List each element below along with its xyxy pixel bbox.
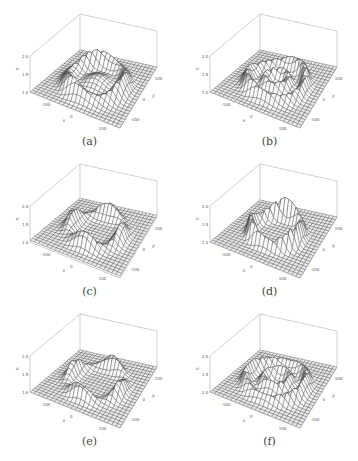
svg-text:100: 100 bbox=[155, 376, 163, 381]
svg-text:1.0: 1.0 bbox=[202, 390, 209, 395]
svg-text:u: u bbox=[196, 66, 199, 71]
panel-caption-b: (b) bbox=[180, 135, 358, 148]
svg-text:u: u bbox=[196, 216, 199, 221]
svg-text:u: u bbox=[16, 66, 19, 71]
svg-text:-100: -100 bbox=[41, 252, 51, 257]
svg-text:0: 0 bbox=[70, 114, 73, 119]
svg-text:0: 0 bbox=[323, 397, 326, 402]
svg-text:-100: -100 bbox=[221, 402, 231, 407]
svg-text:0: 0 bbox=[250, 264, 253, 269]
svg-text:1.0: 1.0 bbox=[202, 90, 209, 95]
svg-text:0: 0 bbox=[143, 247, 146, 252]
svg-text:y: y bbox=[331, 93, 335, 98]
svg-text:y: y bbox=[331, 393, 335, 398]
panel-caption-f: (f) bbox=[180, 435, 358, 448]
svg-text:2.0: 2.0 bbox=[202, 354, 209, 359]
svg-text:1.5: 1.5 bbox=[202, 222, 209, 227]
svg-text:1.5: 1.5 bbox=[202, 372, 209, 377]
svg-text:1.0: 1.0 bbox=[202, 240, 209, 245]
svg-text:0: 0 bbox=[70, 414, 73, 419]
svg-text:-100: -100 bbox=[310, 417, 320, 422]
z-axis: 1.01.52.0u bbox=[16, 354, 29, 395]
svg-text:100: 100 bbox=[335, 376, 343, 381]
surface-plot-panel-a: 1.01.52.0u-1000100x-1000100y(a) bbox=[0, 0, 179, 150]
svg-text:1.0: 1.0 bbox=[22, 390, 29, 395]
svg-text:2.0: 2.0 bbox=[22, 54, 29, 59]
svg-text:100: 100 bbox=[155, 76, 163, 81]
svg-text:x: x bbox=[242, 118, 246, 123]
surface-mesh bbox=[30, 198, 157, 276]
svg-text:-100: -100 bbox=[221, 102, 231, 107]
surface-plot-panel-c: 1.01.52.0u-1000100x-1000100y(c) bbox=[0, 150, 179, 300]
svg-text:2.0: 2.0 bbox=[202, 54, 209, 59]
surface-plot-c: 1.01.52.0u-1000100x-1000100y bbox=[0, 150, 179, 285]
surface-plot-panel-e: 1.01.52.0u-1000100x-1000100y(e) bbox=[0, 300, 179, 450]
svg-text:-100: -100 bbox=[310, 267, 320, 272]
svg-text:0: 0 bbox=[323, 97, 326, 102]
svg-text:-100: -100 bbox=[221, 252, 231, 257]
svg-text:2.0: 2.0 bbox=[22, 204, 29, 209]
panel-caption-c: (c) bbox=[0, 285, 179, 298]
svg-text:1.5: 1.5 bbox=[22, 372, 29, 377]
svg-text:100: 100 bbox=[99, 126, 107, 131]
surface-plot-panel-b: 1.01.52.0u-1000100x-1000100y(b) bbox=[180, 0, 358, 150]
svg-text:0: 0 bbox=[250, 414, 253, 419]
surface-plot-panel-d: 1.01.52.0u-1000100x-1000100y(d) bbox=[180, 150, 358, 300]
svg-text:100: 100 bbox=[335, 226, 343, 231]
svg-text:100: 100 bbox=[279, 426, 287, 431]
svg-text:100: 100 bbox=[335, 76, 343, 81]
svg-text:x: x bbox=[62, 418, 66, 423]
svg-text:-100: -100 bbox=[310, 117, 320, 122]
svg-text:1.0: 1.0 bbox=[22, 90, 29, 95]
svg-text:100: 100 bbox=[279, 276, 287, 281]
svg-text:2.0: 2.0 bbox=[22, 354, 29, 359]
svg-text:u: u bbox=[16, 366, 19, 371]
svg-text:100: 100 bbox=[99, 426, 107, 431]
svg-text:0: 0 bbox=[143, 97, 146, 102]
svg-text:0: 0 bbox=[250, 114, 253, 119]
svg-text:2.0: 2.0 bbox=[202, 204, 209, 209]
surface-plot-e: 1.01.52.0u-1000100x-1000100y bbox=[0, 300, 179, 435]
z-axis: 1.01.52.0u bbox=[16, 54, 29, 95]
svg-text:x: x bbox=[62, 118, 66, 123]
surface-plot-f: 1.01.52.0u-1000100x-1000100y bbox=[180, 300, 358, 435]
svg-text:u: u bbox=[16, 216, 19, 221]
svg-text:u: u bbox=[196, 366, 199, 371]
svg-text:-100: -100 bbox=[41, 102, 51, 107]
cut-off-caption-text bbox=[180, 452, 355, 458]
svg-text:1.5: 1.5 bbox=[22, 72, 29, 77]
svg-text:1.0: 1.0 bbox=[22, 240, 29, 245]
svg-text:-100: -100 bbox=[130, 267, 140, 272]
surface-plot-a: 1.01.52.0u-1000100x-1000100y bbox=[0, 0, 179, 135]
surface-plot-b: 1.01.52.0u-1000100x-1000100y bbox=[180, 0, 358, 135]
svg-text:1.5: 1.5 bbox=[22, 222, 29, 227]
svg-text:x: x bbox=[242, 268, 246, 273]
z-axis: 1.01.52.0u bbox=[196, 204, 209, 245]
svg-text:-100: -100 bbox=[130, 117, 140, 122]
svg-text:0: 0 bbox=[143, 397, 146, 402]
panel-caption-a: (a) bbox=[0, 135, 179, 148]
panel-caption-e: (e) bbox=[0, 435, 179, 448]
svg-text:-100: -100 bbox=[41, 402, 51, 407]
surface-plot-panel-f: 1.01.52.0u-1000100x-1000100y(f) bbox=[180, 300, 358, 450]
svg-text:0: 0 bbox=[323, 247, 326, 252]
svg-text:-100: -100 bbox=[130, 417, 140, 422]
svg-text:y: y bbox=[151, 93, 155, 98]
z-axis: 1.01.52.0u bbox=[16, 204, 29, 245]
panel-caption-d: (d) bbox=[180, 285, 358, 298]
surface-plot-d: 1.01.52.0u-1000100x-1000100y bbox=[180, 150, 358, 285]
svg-text:100: 100 bbox=[279, 126, 287, 131]
svg-text:x: x bbox=[62, 268, 66, 273]
svg-text:y: y bbox=[151, 243, 155, 248]
z-axis: 1.01.52.0u bbox=[196, 54, 209, 95]
svg-text:0: 0 bbox=[70, 264, 73, 269]
svg-text:1.5: 1.5 bbox=[202, 72, 209, 77]
svg-text:100: 100 bbox=[155, 226, 163, 231]
svg-text:100: 100 bbox=[99, 276, 107, 281]
svg-text:y: y bbox=[331, 243, 335, 248]
z-axis: 1.01.52.0u bbox=[196, 354, 209, 395]
svg-text:y: y bbox=[151, 393, 155, 398]
svg-text:x: x bbox=[242, 418, 246, 423]
